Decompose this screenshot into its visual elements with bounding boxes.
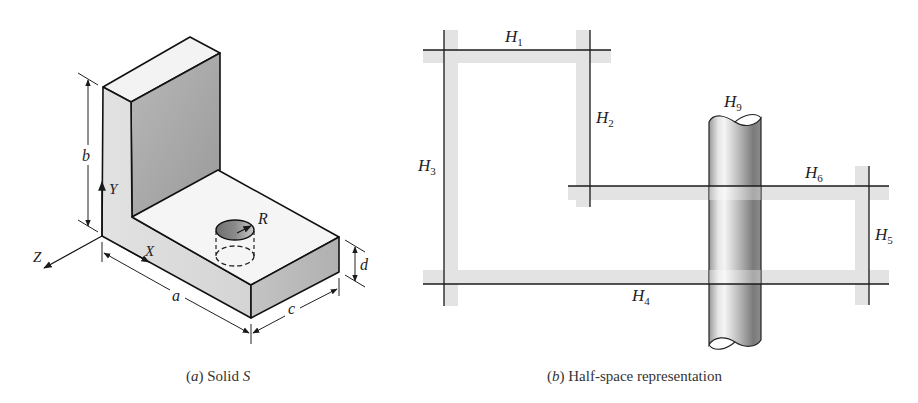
caption-a: (a) Solid S xyxy=(186,368,251,385)
solid-s-drawing: b Y Z X a c d R (a) Solid S xyxy=(33,37,369,385)
figure-canvas: b Y Z X a c d R (a) Solid S xyxy=(0,0,918,403)
label-h9: H9 xyxy=(723,92,742,113)
caption-b: (b) Half-space representation xyxy=(547,368,722,385)
label-h1: H1 xyxy=(504,27,523,48)
label-c: c xyxy=(288,300,295,317)
label-x-axis: X xyxy=(144,243,155,259)
label-d: d xyxy=(360,256,369,273)
label-h2: H2 xyxy=(595,108,614,129)
label-z-axis: Z xyxy=(33,249,42,265)
label-h6: H6 xyxy=(804,163,823,184)
label-h5: H5 xyxy=(874,225,893,246)
label-b: b xyxy=(82,147,90,164)
halfspace-drawing: H1 H2 H3 H4 H5 H6 H9 (b) Half-space repr… xyxy=(417,27,893,385)
cylinder-h9 xyxy=(709,115,761,350)
label-a: a xyxy=(172,287,180,304)
halfspace-boundaries xyxy=(423,30,889,306)
halfspace-shading xyxy=(423,30,889,306)
label-h4: H4 xyxy=(631,286,650,307)
label-R: R xyxy=(257,210,268,227)
label-h3: H3 xyxy=(417,156,436,177)
